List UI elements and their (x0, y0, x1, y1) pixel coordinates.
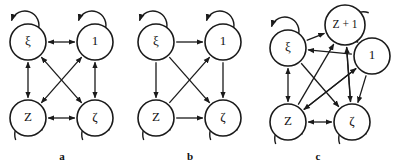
node-label-c-xi: ξ (285, 39, 291, 54)
node-b-one: 1 (205, 24, 241, 60)
node-label-a-one: 1 (92, 33, 99, 48)
node-b-Z: Z (138, 100, 174, 136)
node-label-a-Z: Z (24, 109, 32, 124)
panel-caption-b: b (187, 150, 193, 162)
edge-c-one-to-zeta (358, 75, 366, 102)
edge-c-Zp1-to-zeta (347, 47, 351, 102)
node-label-b-Z: Z (152, 109, 160, 124)
node-c-one: 1 (354, 38, 390, 74)
node-b-zeta: ζ (205, 100, 241, 136)
node-label-b-one: 1 (220, 33, 227, 48)
node-c-Z: Z (270, 104, 306, 140)
edge-c-xi-to-Zp1 (307, 33, 325, 40)
figure-container: ξ1Zζξ1ZζξZ + 11Zζ abc (0, 0, 397, 167)
node-c-Zp1: Z + 1 (325, 5, 365, 45)
node-a-one: 1 (77, 24, 113, 60)
graph-canvas: ξ1Zζξ1ZζξZ + 11Zζ abc (0, 0, 397, 167)
node-a-zeta: ζ (77, 100, 113, 136)
edge-c-xi-to-zeta (301, 63, 339, 106)
node-a-Z: Z (10, 100, 46, 136)
node-label-c-Zp1: Z + 1 (332, 18, 357, 30)
node-label-c-Z: Z (284, 113, 292, 128)
node-label-a-xi: ξ (25, 33, 31, 48)
panel-caption-a: a (59, 150, 65, 162)
node-label-c-zeta: ζ (349, 113, 355, 128)
node-a-xi: ξ (10, 24, 46, 60)
panel-caption-c: c (316, 150, 321, 162)
node-c-zeta: ζ (334, 104, 370, 140)
node-label-a-zeta: ζ (92, 109, 98, 124)
self-loops-layer (12, 11, 369, 144)
node-label-b-xi: ξ (153, 33, 159, 48)
node-c-xi: ξ (270, 30, 306, 66)
panel-labels-layer: abc (59, 150, 320, 162)
nodes-layer: ξ1Zζξ1ZζξZ + 11Zζ (10, 5, 390, 140)
node-label-c-one: 1 (369, 47, 376, 62)
node-b-xi: ξ (138, 24, 174, 60)
node-label-b-zeta: ζ (220, 109, 226, 124)
